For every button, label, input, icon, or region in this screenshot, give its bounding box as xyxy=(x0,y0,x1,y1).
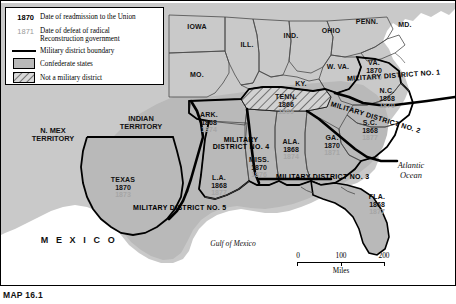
scale-tick-mark-2 xyxy=(384,262,385,266)
new-mexico-line2: TERRITORY xyxy=(32,135,74,143)
boundary-line-icon xyxy=(12,50,36,52)
scale-tick-200: 200 xyxy=(378,251,389,260)
legend-swatch-boundary xyxy=(6,46,40,52)
legend-key-readmission: 1870 xyxy=(6,13,40,22)
state-label-indiana: IND. xyxy=(284,32,299,40)
georgia-readmission: 1870 xyxy=(324,142,340,150)
state-label-virginia: VA. xyxy=(366,59,382,67)
louisiana-readmission: 1868 xyxy=(211,182,227,190)
south-carolina-defeat: 1877 xyxy=(362,134,378,142)
florida-defeat: 1877 xyxy=(369,208,385,216)
state-block-alabama: ALA. 1868 1874 xyxy=(282,138,299,161)
state-label-west-virginia: W. VA. xyxy=(327,63,349,71)
state-block-mississippi: MISS. 1870 1876 xyxy=(249,156,269,179)
state-label-iowa: IOWA xyxy=(187,23,206,31)
territory-label-indian: INDIAN TERRITORY xyxy=(120,115,162,131)
state-block-texas: TEXAS 1870 1873 xyxy=(111,176,135,199)
georgia-defeat: 1871 xyxy=(324,149,340,157)
state-label-tennessee: TENN. xyxy=(275,93,297,101)
scale-bar-graphic xyxy=(297,262,385,267)
tennessee-defeat: 1869 xyxy=(275,108,297,116)
gulf-of-mexico-label: Gulf of Mexico xyxy=(210,239,256,248)
tennessee-readmission: 1866 xyxy=(275,101,297,109)
legend-item-confederate: Confederate states xyxy=(6,58,163,69)
mississippi-defeat: 1876 xyxy=(249,171,269,179)
state-label-ohio: OHIO xyxy=(322,27,341,35)
legend-swatch-confederate xyxy=(6,58,40,69)
scale-numbers: 0 100 200 xyxy=(297,251,385,261)
mexico-label: M E X I C O xyxy=(41,235,118,245)
scale-bar: 0 100 200 Miles xyxy=(297,251,385,275)
legend-text-confederate: Confederate states xyxy=(40,60,93,68)
alabama-readmission: 1868 xyxy=(282,146,299,154)
state-label-louisiana: L.A. xyxy=(211,174,227,182)
state-label-kentucky: KY. xyxy=(295,80,307,88)
state-block-louisiana: L.A. 1868 1877 xyxy=(211,174,227,197)
state-block-florida: FLA. 1868 1877 xyxy=(369,193,385,216)
state-block-south-carolina: S.C. 1868 1877 xyxy=(362,119,378,142)
state-block-arkansas: ARK. 1868 1874 xyxy=(200,111,218,134)
state-label-missouri: MO. xyxy=(190,71,204,79)
mississippi-readmission: 1870 xyxy=(249,164,269,172)
map-frame: 1870 Date of readmission to the Union 18… xyxy=(0,0,456,286)
legend-text-defeat: Date of defeat of radical Reconstruction… xyxy=(40,27,152,44)
territory-label-new-mexico: N. MEX TERRITORY xyxy=(32,127,74,143)
district-4-line1: MILITARY xyxy=(206,136,276,143)
legend-text-readmission: Date of readmission to the Union xyxy=(40,13,136,21)
state-label-north-carolina: N.C. xyxy=(379,87,395,95)
state-label-alabama: ALA. xyxy=(282,138,299,146)
arkansas-readmission: 1868 xyxy=(200,119,218,127)
scale-unit-label: Miles xyxy=(297,267,385,275)
confederate-fill-icon xyxy=(13,58,35,69)
legend-key-defeat: 1871 xyxy=(6,27,40,36)
atlantic-ocean-label: Atlantic Ocean xyxy=(398,161,425,181)
map-caption: MAP 16.1 xyxy=(3,290,43,300)
scale-tick-100: 100 xyxy=(335,251,346,260)
south-carolina-readmission: 1868 xyxy=(362,127,378,135)
legend-swatch-not-district xyxy=(6,72,40,83)
atlantic-line2: Ocean xyxy=(398,171,425,181)
state-block-north-carolina: N.C. 1868 1870 xyxy=(379,87,395,110)
state-label-illinois: ILL. xyxy=(240,41,253,49)
state-label-pennsylvania: PENN. xyxy=(356,18,378,26)
state-label-arkansas: ARK. xyxy=(200,111,218,119)
district-label-4: MILITARY DISTRICT NO. 4 xyxy=(206,136,276,150)
scale-tick-mark-0 xyxy=(297,262,298,266)
legend-item-boundary: Military district boundary xyxy=(6,46,163,55)
alabama-defeat: 1874 xyxy=(282,153,299,161)
district-label-3: MILITARY DISTRICT NO. 3 xyxy=(276,173,370,180)
louisiana-defeat: 1877 xyxy=(211,189,227,197)
district-4-line2: DISTRICT NO. 4 xyxy=(206,143,276,150)
arkansas-defeat: 1874 xyxy=(200,126,218,134)
florida-readmission: 1868 xyxy=(369,201,385,209)
legend-text-boundary: Military district boundary xyxy=(40,47,114,55)
legend-text-not-district: Not a military district xyxy=(40,74,102,82)
district-label-5: MILITARY DISTRICT NO. 5 xyxy=(133,204,227,211)
legend-item-readmission: 1870 Date of readmission to the Union xyxy=(6,13,163,22)
scale-tick-mark-1 xyxy=(341,262,342,266)
hatch-fill-icon xyxy=(13,72,35,83)
state-label-maryland: MD. xyxy=(398,21,411,29)
indian-line2: TERRITORY xyxy=(120,123,162,131)
state-label-texas: TEXAS xyxy=(111,176,135,184)
state-block-tennessee: TENN. 1866 1869 xyxy=(275,93,297,116)
atlantic-line1: Atlantic xyxy=(398,161,425,171)
state-label-georgia: GA. xyxy=(324,134,340,142)
scale-tick-0: 0 xyxy=(296,251,300,260)
state-label-florida: FLA. xyxy=(369,193,385,201)
map-legend: 1870 Date of readmission to the Union 18… xyxy=(5,7,164,85)
north-carolina-readmission: 1868 xyxy=(379,95,395,103)
state-block-georgia: GA. 1870 1871 xyxy=(324,134,340,157)
texas-defeat: 1873 xyxy=(111,191,135,199)
legend-item-defeat: 1871 Date of defeat of radical Reconstru… xyxy=(6,27,163,44)
north-carolina-defeat: 1870 xyxy=(379,102,395,110)
texas-readmission: 1870 xyxy=(111,184,135,192)
legend-item-not-district: Not a military district xyxy=(6,72,163,83)
map-screenshot: 1870 Date of readmission to the Union 18… xyxy=(0,0,456,304)
state-label-mississippi: MISS. xyxy=(249,156,269,164)
